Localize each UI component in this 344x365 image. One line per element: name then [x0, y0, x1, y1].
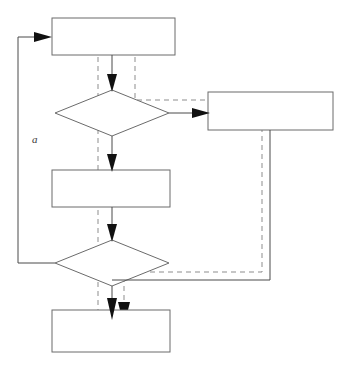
- edge-top-to-decision1-arrowhead: [107, 74, 117, 92]
- edge-middle-to-decision2-arrowhead: [107, 224, 117, 242]
- flowchart-canvas: a: [0, 0, 344, 365]
- node-decision-second[interactable]: [55, 240, 169, 286]
- node-process-middle[interactable]: [52, 170, 170, 207]
- flowchart-diagram: a: [0, 0, 344, 365]
- edge-decision1-to-right-arrowhead: [192, 108, 210, 118]
- edge-label-a: a: [32, 133, 38, 145]
- node-process-top[interactable]: [52, 18, 175, 55]
- edge-decision2-feedback-arrowhead: [34, 32, 52, 42]
- edge-decision1-to-middle-arrowhead: [107, 154, 117, 172]
- node-decision-first[interactable]: [55, 90, 169, 136]
- node-process-bottom[interactable]: [52, 310, 170, 352]
- edge-decision2-feedback: [18, 37, 55, 263]
- node-process-right[interactable]: [208, 92, 333, 130]
